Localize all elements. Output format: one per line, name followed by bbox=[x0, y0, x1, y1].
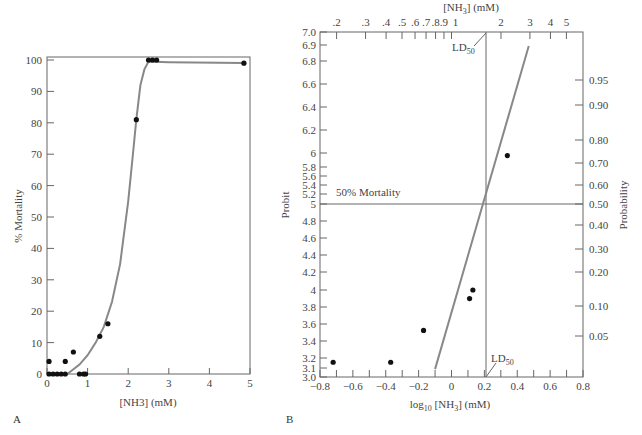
data-point bbox=[97, 334, 102, 339]
right-tick-label: 0.50 bbox=[589, 198, 609, 210]
y-tick-label: 100 bbox=[26, 54, 43, 66]
y-tick-label: 4.8 bbox=[302, 215, 316, 227]
right-tick-label: 0.90 bbox=[589, 99, 609, 111]
y-tick-label: 90 bbox=[31, 85, 43, 97]
right-tick-label: 0.80 bbox=[589, 134, 609, 146]
x-tick-label: 0 bbox=[449, 380, 455, 392]
x-tick-label: 0.4 bbox=[510, 380, 524, 392]
y-axis-title-probability: Probability bbox=[617, 180, 629, 229]
x-tick-label: 0 bbox=[44, 377, 50, 389]
right-tick-label: 0.05 bbox=[589, 330, 609, 342]
panel-label-a: A bbox=[13, 413, 21, 425]
x-tick-label: −0.8 bbox=[310, 380, 330, 392]
data-point bbox=[241, 61, 246, 66]
top-tick-label: .6 bbox=[411, 16, 420, 28]
data-point bbox=[105, 321, 110, 326]
right-axis-probability: 0.950.900.800.700.600.500.400.300.200.10… bbox=[575, 74, 609, 342]
right-tick-label: 0.60 bbox=[589, 179, 609, 191]
figure: 0102030405060708090100 012345 % Mortalit… bbox=[0, 0, 642, 435]
y-tick-label: 4.2 bbox=[302, 266, 316, 278]
x-tick-label: −0.6 bbox=[343, 380, 363, 392]
x-axis-title-b: log10 [NH3] (mM) bbox=[410, 398, 491, 413]
data-point bbox=[83, 371, 88, 376]
x-tick-label: −0.2 bbox=[409, 380, 429, 392]
y-tick-label: 6.4 bbox=[302, 101, 316, 113]
x-tick-label: 0.6 bbox=[543, 380, 557, 392]
x-tick-label: 4 bbox=[207, 377, 213, 389]
data-point bbox=[154, 57, 159, 62]
top-tick-label: 5 bbox=[564, 16, 570, 28]
data-point bbox=[467, 296, 472, 301]
data-point bbox=[63, 371, 68, 376]
y-tick-label: 80 bbox=[31, 117, 43, 129]
right-tick-label: 0.30 bbox=[589, 243, 609, 255]
x-axis-log: −0.8−0.6−0.4−0.200.20.40.60.8 bbox=[310, 370, 590, 392]
data-point bbox=[63, 359, 68, 364]
y-tick-label: 7.0 bbox=[302, 26, 316, 38]
top-tick-label: .2 bbox=[332, 16, 340, 28]
top-tick-label: .4 bbox=[382, 16, 391, 28]
top-tick-label: .5 bbox=[398, 16, 407, 28]
x-tick-label: 3 bbox=[166, 377, 172, 389]
y-tick-label: 3.4 bbox=[302, 335, 316, 347]
top-tick-label: 2 bbox=[498, 16, 504, 28]
y-tick-label: 4.6 bbox=[302, 232, 316, 244]
y-tick-label: 4.4 bbox=[302, 249, 316, 261]
y-tick-label: 40 bbox=[31, 242, 43, 254]
y-axis-title-probit: Probit bbox=[279, 192, 291, 219]
ld50-top-leader bbox=[474, 33, 486, 46]
data-point bbox=[470, 287, 475, 292]
data-point bbox=[71, 349, 76, 354]
x-axis-title-a: [NH3] (mM) bbox=[119, 396, 176, 409]
y-tick-label: 20 bbox=[31, 305, 43, 317]
y-tick-label: 70 bbox=[31, 148, 43, 160]
data-point bbox=[331, 360, 336, 365]
y-tick-label: 3.6 bbox=[302, 318, 316, 330]
panel-b: 7.06.96.86.66.46.265.85.65.45.254.84.64.… bbox=[279, 1, 629, 425]
x-tick-label: 0.2 bbox=[478, 380, 492, 392]
data-point bbox=[421, 328, 426, 333]
top-tick-label: .7 bbox=[422, 16, 431, 28]
top-tick-label: .9 bbox=[440, 16, 449, 28]
right-tick-label: 0.10 bbox=[589, 300, 609, 312]
x-tick-label: −0.4 bbox=[376, 380, 396, 392]
top-tick-label: 3 bbox=[527, 16, 533, 28]
right-tick-label: 0.95 bbox=[589, 74, 609, 86]
data-points-a bbox=[46, 57, 246, 376]
x-tick-label: 2 bbox=[125, 377, 131, 389]
right-tick-label: 0.20 bbox=[589, 266, 609, 278]
data-points-b bbox=[331, 153, 510, 365]
y-tick-label: 30 bbox=[31, 274, 43, 286]
data-point bbox=[134, 117, 139, 122]
ld50-top-label: LD50 bbox=[452, 41, 475, 56]
data-point bbox=[46, 359, 51, 364]
data-point bbox=[388, 360, 393, 365]
panel-a: 0102030405060708090100 012345 % Mortalit… bbox=[12, 54, 253, 425]
right-tick-label: 0.40 bbox=[589, 219, 609, 231]
x-axis-a: 012345 bbox=[44, 368, 253, 389]
y-tick-label: 0 bbox=[37, 368, 43, 380]
top-axis-concentration: .2.3.4.5.6.7.8.912345 bbox=[332, 16, 569, 39]
y-tick-label: 5 bbox=[311, 198, 317, 210]
y-tick-label: 4 bbox=[311, 284, 317, 296]
data-point bbox=[505, 153, 510, 158]
ld50-bottom-leader bbox=[486, 363, 496, 377]
top-axis-title-b: [NH3] (mM) bbox=[443, 1, 499, 16]
panel-label-b: B bbox=[286, 413, 293, 425]
fifty-percent-label: 50% Mortality bbox=[336, 186, 401, 198]
x-tick-label: 0.8 bbox=[576, 380, 590, 392]
y-tick-label: 50 bbox=[31, 211, 43, 223]
y-tick-label: 6 bbox=[311, 147, 317, 159]
plot-frame-a bbox=[47, 57, 250, 374]
y-tick-label: 6.6 bbox=[302, 78, 316, 90]
x-tick-label: 1 bbox=[85, 377, 91, 389]
y-tick-label: 6.9 bbox=[302, 39, 316, 51]
fitted-curve-a bbox=[67, 62, 244, 374]
y-axis-a: 0102030405060708090100 bbox=[26, 54, 55, 380]
y-tick-label: 3.8 bbox=[302, 301, 316, 313]
regression-line-b bbox=[435, 46, 529, 369]
top-tick-label: 1 bbox=[453, 16, 459, 28]
top-tick-label: 4 bbox=[548, 16, 554, 28]
y-tick-label: 6.8 bbox=[302, 55, 316, 67]
x-tick-label: 5 bbox=[247, 377, 253, 389]
